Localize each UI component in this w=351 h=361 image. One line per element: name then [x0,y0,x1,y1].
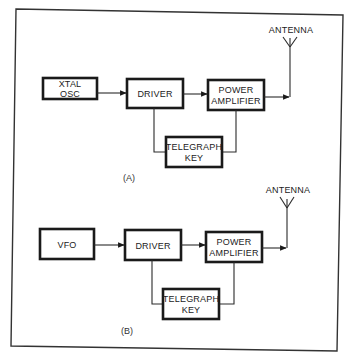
xtal-osc-label-line2: OSC [60,89,80,99]
wire-pa-to-key-b [219,262,234,304]
caption-a: (A) [123,173,135,183]
wire-pa-to-key-a [222,110,236,152]
xtal-osc-label-line1: XTAL [59,79,82,89]
vfo-label: VFO [57,240,76,250]
transmitter-block-diagram: XTAL OSC DRIVER POWER AMPLIFIER ANTENNA [0,0,351,361]
pa-label-b-line1: POWER [216,237,251,247]
pa-label-a-line2: AMPLIFIER [211,96,261,106]
antenna-label-a: ANTENNA [269,25,313,35]
key-label-b-line2: KEY [182,305,201,315]
antenna-label-b: ANTENNA [266,185,310,195]
antenna-icon [280,197,287,208]
wire-driver-to-key-b [152,260,163,304]
power-amplifier-block-b: POWER AMPLIFIER [206,232,262,262]
caption-b: (B) [121,326,133,336]
telegraph-key-block-a: TELEGRAPH KEY [166,137,222,167]
pa-label-a-line1: POWER [218,85,253,95]
pa-label-b-line2: AMPLIFIER [209,248,259,258]
diagram-b: VFO DRIVER POWER AMPLIFIER ANTENNA [40,185,310,336]
antenna-icon [283,37,290,47]
antenna-b: ANTENNA [266,185,310,248]
xtal-osc-block: XTAL OSC [43,78,97,99]
telegraph-key-block-b: TELEGRAPH KEY [163,289,219,319]
antenna-a: ANTENNA [269,25,313,97]
driver-label-b: DRIVER [135,241,171,251]
key-label-b-line1: TELEGRAPH [163,294,219,304]
key-label-a-line1: TELEGRAPH [166,142,222,152]
key-label-a-line2: KEY [185,153,204,163]
driver-label-a: DRIVER [137,89,173,99]
power-amplifier-block-a: POWER AMPLIFIER [208,80,264,110]
driver-block-a: DRIVER [127,79,183,108]
driver-block-b: DRIVER [125,230,181,260]
vfo-block: VFO [40,229,94,259]
diagram-a: XTAL OSC DRIVER POWER AMPLIFIER ANTENNA [43,25,313,183]
wire-driver-to-key-a [154,108,166,152]
